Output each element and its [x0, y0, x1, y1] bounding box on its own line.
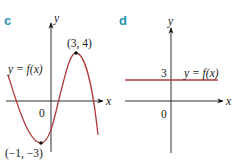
y-axis-label: y	[167, 15, 174, 28]
graph-panel-d: d y x 0 3 y = f(x)	[118, 0, 236, 165]
origin-label: 0	[161, 108, 167, 120]
graph-panel-c: c y x 0 y = f(x) (3, 4) (−1, −3)	[0, 0, 118, 165]
graph-c-plot: y x 0 y = f(x) (3, 4) (−1, −3)	[0, 0, 118, 165]
graph-d-plot: y x 0 3 y = f(x)	[118, 0, 236, 165]
function-label: y = f(x)	[183, 67, 219, 80]
max-point-marker	[74, 51, 78, 55]
function-label: y = f(x)	[7, 63, 43, 76]
y-intercept-label: 3	[161, 67, 167, 79]
max-point-label: (3, 4)	[67, 37, 92, 50]
x-axis-label: x	[225, 95, 232, 107]
min-point-label: (−1, −3)	[5, 147, 43, 160]
x-axis-label: x	[105, 95, 112, 107]
y-axis-label: y	[53, 12, 60, 25]
origin-label: 0	[39, 107, 45, 119]
min-point-marker	[39, 141, 43, 145]
